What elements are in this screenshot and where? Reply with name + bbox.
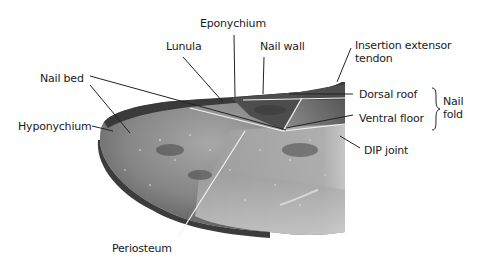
label-insertion-extensor-tendon-1: Insertion extensor bbox=[355, 39, 451, 52]
label-dip-joint: DIP joint bbox=[364, 144, 408, 157]
nail-fold-brace bbox=[432, 88, 440, 130]
label-ventral-floor: Ventral floor bbox=[359, 112, 424, 125]
label-nail-fold-2: fold bbox=[443, 108, 463, 121]
label-insertion-extensor-tendon-2: tendon bbox=[355, 52, 393, 65]
label-lunula: Lunula bbox=[166, 40, 201, 53]
label-eponychium: Eponychium bbox=[200, 17, 266, 30]
nail-anatomy-diagram: Eponychium Lunula Nail wall Insertion ex… bbox=[0, 0, 486, 264]
label-nail-fold-1: Nail bbox=[443, 95, 463, 108]
label-hyponychium: Hyponychium bbox=[18, 120, 92, 133]
label-nail-bed: Nail bed bbox=[40, 72, 84, 85]
label-periosteum: Periosteum bbox=[112, 242, 172, 255]
label-dorsal-roof: Dorsal roof bbox=[359, 88, 417, 101]
label-nail-wall: Nail wall bbox=[260, 40, 305, 53]
